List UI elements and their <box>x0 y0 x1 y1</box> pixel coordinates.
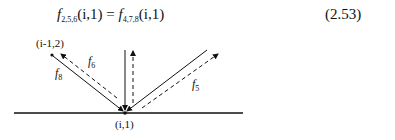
label-f5: f5 <box>192 77 199 93</box>
node-label-top-left: (i-1,2) <box>36 37 64 50</box>
arrow-f5-outgoing <box>142 54 218 108</box>
label-f8: f8 <box>55 66 62 82</box>
label-f6: f6 <box>88 54 95 70</box>
lattice-diagram: (i-1,2) (i,1) f6 f8 f5 <box>0 0 395 140</box>
node-label-bottom: (i,1) <box>115 118 134 131</box>
node-i1-dot <box>123 111 127 115</box>
